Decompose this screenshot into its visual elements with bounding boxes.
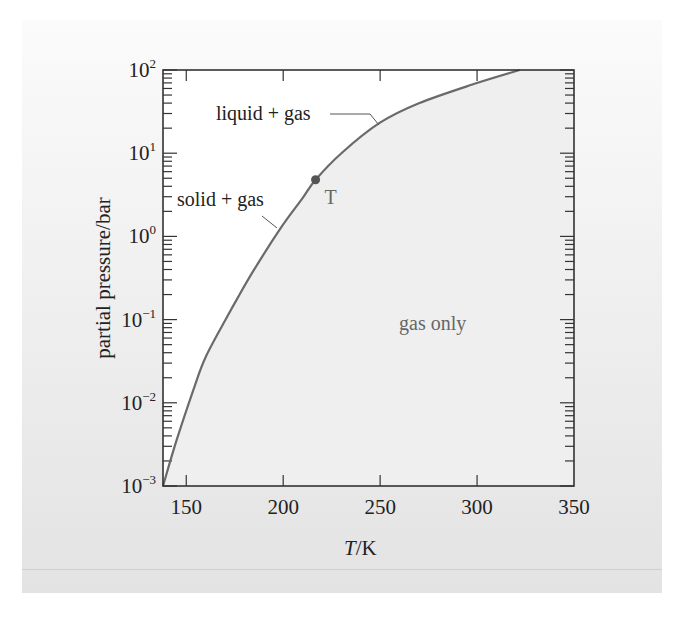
y-tick-label: 10−2 [121, 389, 156, 415]
x-tick-label: 250 [364, 495, 396, 519]
triple-point-label: T [325, 186, 337, 208]
gas-only-label: gas only [399, 312, 466, 335]
x-axis-title-unit: /K [356, 536, 377, 560]
solid-gas-label: solid + gas [177, 188, 264, 211]
liquid-gas-label: liquid + gas [216, 102, 311, 125]
x-tick-labels: 150200250300350 [171, 495, 590, 519]
x-tick-label: 150 [171, 495, 203, 519]
x-tick-label: 300 [461, 495, 493, 519]
y-tick-label: 10−1 [121, 306, 156, 332]
y-axis-title: partial pressure/bar [91, 197, 115, 359]
phase-diagram-chart: T liquid + gas solid + gas gas only 1502… [0, 0, 683, 623]
y-tick-label: 102 [129, 56, 157, 82]
x-axis-title: T/K [344, 536, 377, 560]
y-tick-labels: 10−310−210−1100101102 [121, 56, 156, 498]
triple-point-marker [311, 175, 320, 184]
x-tick-label: 350 [558, 495, 590, 519]
y-tick-label: 100 [129, 222, 157, 248]
x-tick-label: 200 [267, 495, 299, 519]
y-tick-label: 101 [129, 139, 157, 165]
y-tick-label: 10−3 [121, 472, 156, 498]
